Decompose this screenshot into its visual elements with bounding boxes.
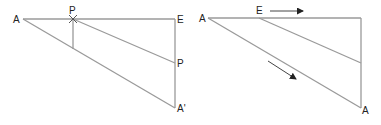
label-a: A	[13, 14, 20, 25]
label-a-bottom: A	[362, 105, 369, 116]
label-a-prime: A'	[177, 103, 186, 114]
geometry-diagram: A P E P A' A E A	[0, 0, 381, 125]
left-diagram: A P E P A'	[13, 5, 186, 114]
line-diagonal-a	[208, 18, 361, 108]
label-a-left: A	[199, 13, 206, 24]
label-e: E	[256, 5, 263, 16]
label-e: E	[177, 14, 184, 25]
arrow-diagonal-icon	[268, 61, 296, 79]
label-p-top: P	[69, 5, 76, 16]
line-p-p	[73, 19, 175, 63]
label-p-right: P	[177, 58, 184, 69]
line-a-aprime	[23, 19, 175, 108]
right-diagram: A E A	[199, 5, 369, 116]
